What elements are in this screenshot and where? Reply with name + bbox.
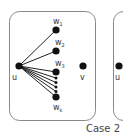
label-u: u: [12, 73, 17, 82]
label-w1: w1: [53, 17, 63, 27]
edge-u-w1: [19, 30, 56, 66]
label-w2: w2: [55, 38, 65, 48]
label-v: v: [80, 73, 85, 82]
case-caption: Case 2: [86, 123, 120, 134]
label-wk: wk: [53, 103, 63, 113]
node-w3: [52, 68, 59, 75]
node-w2: [52, 47, 59, 54]
node-u: [15, 62, 22, 69]
node-wk: [52, 93, 59, 100]
node-small-2: [55, 81, 58, 84]
edges: [19, 30, 56, 97]
node-u-right: [115, 62, 122, 69]
edge-u-w5: [19, 66, 56, 83]
label-u-right: u: [115, 73, 120, 82]
node-w1: [52, 26, 59, 33]
edge-u-w7: [19, 66, 56, 92]
node-small-1: [55, 77, 58, 80]
node-small-4: [55, 90, 58, 93]
diagram-canvas: w1 w2 w3 wk u v u: [0, 0, 123, 140]
edge-u-w2: [19, 51, 56, 66]
label-w3: w3: [55, 59, 65, 69]
node-v: [79, 62, 86, 69]
node-small-3: [55, 86, 58, 89]
